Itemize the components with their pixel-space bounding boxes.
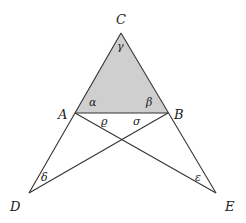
angle-label-delta: δ: [41, 171, 48, 184]
angle-label-epsilon: ε: [195, 171, 201, 184]
vertex-label-c: C: [116, 12, 126, 27]
angle-label-sigma: σ: [133, 115, 141, 128]
geometry-figure: C A B D E γ α β ϱ σ δ ε: [0, 0, 246, 223]
vertex-label-d: D: [9, 199, 21, 214]
angle-label-gamma: γ: [117, 40, 124, 53]
angle-label-beta: β: [145, 96, 152, 109]
angle-label-alpha: α: [89, 96, 97, 109]
vertex-label-e: E: [224, 199, 235, 214]
vertex-label-a: A: [57, 107, 67, 122]
angle-label-rho: ϱ: [101, 115, 108, 128]
vertex-label-b: B: [173, 107, 184, 122]
segment-b-d: [29, 113, 168, 193]
diagram-canvas: C A B D E γ α β ϱ σ δ ε: [0, 0, 246, 223]
